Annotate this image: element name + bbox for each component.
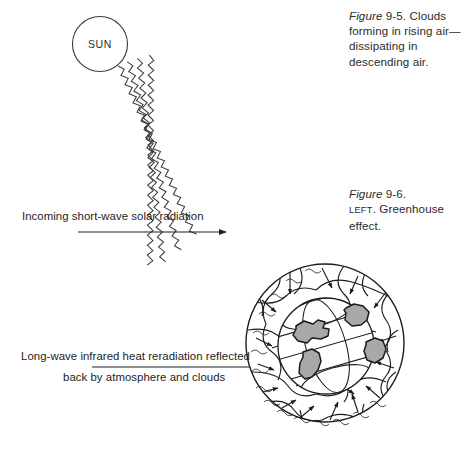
caption-figure-9-6: Figure 9-6.LEFT. Greenhouse effect. [349,186,461,234]
label-long-wave-line-1: Long-wave infrared heat reradiation refl… [21,349,250,363]
label-incoming-short-wave: Incoming short-wave solar radiation [22,209,204,223]
label-long-wave-line-2: back by atmosphere and clouds [63,370,225,384]
sun-label: SUN [88,38,112,50]
caption-figure-9-5: Figure 9-5. Clouds forming in rising air… [349,8,461,69]
solar-ray-2 [127,59,182,252]
caption-9-5-ref: Figure [349,9,382,22]
caption-9-6-ref: Figure [349,187,382,200]
caption-9-6-position: LEFT [349,205,373,215]
caption-9-6-number: 9-6. [382,187,406,200]
sun-symbol: SUN [73,17,128,72]
solar-ray-group [117,55,196,265]
figure-illustration: SUN [0,0,467,457]
